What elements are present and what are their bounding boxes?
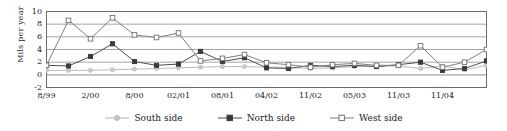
data-point-marker [154, 35, 159, 40]
data-point-marker [88, 36, 93, 41]
data-point-marker [67, 69, 71, 73]
legend-label-north-side: North side [247, 113, 295, 123]
plot-area [46, 11, 487, 88]
data-point-marker [110, 16, 115, 21]
legend-swatch-south-side [104, 113, 130, 123]
data-point-marker [154, 63, 158, 67]
x-tick-label: 2/00 [82, 91, 100, 100]
data-point-marker [352, 61, 357, 66]
data-point-marker [132, 59, 136, 63]
y-tick-label: 0 [37, 71, 42, 79]
data-point-marker [88, 54, 92, 58]
data-point-marker [396, 63, 401, 68]
y-tick-label: 2 [37, 58, 42, 66]
data-point-marker [110, 42, 114, 46]
data-point-marker [418, 43, 423, 48]
data-point-marker [221, 65, 225, 69]
data-point-marker [462, 60, 467, 65]
data-point-marker [286, 62, 291, 67]
legend-item-north-side: North side [217, 113, 295, 123]
data-point-marker [176, 31, 181, 36]
data-point-marker [264, 61, 269, 66]
chart-figure: Mils per year -20246810 8/992/008/0002/0… [0, 0, 507, 131]
data-point-marker [133, 67, 137, 71]
data-point-marker [46, 69, 48, 73]
data-point-marker [418, 60, 422, 64]
x-axis-tick-labels: 8/992/008/0002/0108/0104/0211/0205/0311/… [0, 91, 507, 105]
legend-label-west-side: West side [359, 113, 403, 123]
x-tick-label: 02/01 [167, 91, 190, 100]
data-point-marker [243, 65, 247, 69]
y-tick-label: 4 [37, 46, 42, 54]
legend-swatch-west-side [329, 113, 355, 123]
y-tick-label: 10 [32, 8, 42, 16]
x-tick-label: 8/00 [126, 91, 144, 100]
data-point-marker [111, 68, 115, 72]
x-tick-label: 11/04 [431, 91, 454, 100]
data-point-marker [308, 65, 313, 70]
x-tick-label: 11/03 [387, 91, 410, 100]
legend-label-south-side: South side [134, 113, 182, 123]
plot-svg [46, 11, 487, 88]
y-tick-label: 8 [37, 20, 42, 28]
data-point-marker [374, 63, 379, 68]
data-point-marker [462, 66, 466, 70]
data-point-marker [485, 63, 487, 67]
data-point-marker [419, 67, 423, 71]
y-tick-label: 6 [37, 33, 42, 41]
data-point-marker [89, 69, 93, 73]
data-point-marker [66, 64, 70, 68]
data-point-marker [66, 18, 71, 23]
x-tick-label: 04/02 [255, 91, 278, 100]
data-point-marker [330, 62, 335, 67]
data-point-marker [264, 66, 268, 70]
data-point-marker [198, 59, 203, 64]
data-point-marker [220, 56, 225, 61]
data-point-marker [199, 65, 203, 69]
data-point-marker [440, 65, 445, 70]
data-point-marker [198, 49, 202, 53]
x-tick-label: 08/01 [211, 91, 234, 100]
data-point-marker [176, 62, 180, 66]
data-point-marker [132, 33, 137, 38]
data-point-marker [46, 63, 49, 68]
x-tick-label: 11/02 [299, 91, 322, 100]
legend-item-south-side: South side [104, 113, 182, 123]
data-point-marker [242, 52, 247, 57]
x-tick-label: 05/03 [343, 91, 366, 100]
data-point-marker [484, 59, 487, 63]
x-tick-label: 8/99 [38, 91, 56, 100]
chart-legend: South side North side West side [0, 110, 507, 126]
legend-swatch-north-side [217, 113, 243, 123]
data-point-marker [484, 47, 487, 52]
legend-item-west-side: West side [329, 113, 403, 123]
